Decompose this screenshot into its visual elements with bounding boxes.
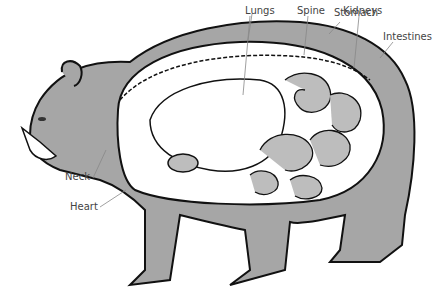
bear-anatomy-diagram: Lungs Spine Kidneys Stomach Intestines N… bbox=[0, 0, 433, 295]
bear-illustration bbox=[0, 0, 433, 295]
label-lungs: Lungs bbox=[245, 6, 275, 16]
label-stomach: Stomach bbox=[334, 8, 378, 18]
label-heart: Heart bbox=[70, 202, 98, 212]
heart bbox=[168, 154, 198, 172]
label-neck: Neck bbox=[65, 172, 90, 182]
label-spine: Spine bbox=[297, 6, 325, 16]
label-intestines: Intestines bbox=[383, 32, 432, 42]
bear-eye bbox=[38, 117, 46, 121]
